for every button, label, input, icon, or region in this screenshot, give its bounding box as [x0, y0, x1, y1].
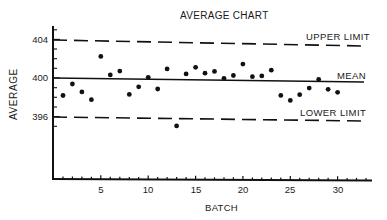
- data-point: [117, 69, 122, 74]
- data-point: [146, 75, 151, 80]
- data-point: [250, 74, 255, 79]
- mean-label: MEAN: [337, 70, 366, 81]
- data-point: [335, 90, 340, 95]
- data-point: [155, 87, 160, 92]
- upper-limit-label: UPPER LIMIT: [306, 31, 370, 42]
- data-point: [80, 90, 85, 95]
- x-axis: [52, 179, 372, 181]
- x-tick-5: 5: [91, 184, 111, 195]
- data-point: [269, 68, 274, 73]
- data-point: [231, 73, 236, 78]
- y-tick-396: 396: [18, 111, 48, 122]
- data-point: [222, 76, 227, 81]
- data-point: [307, 86, 312, 91]
- data-point: [136, 84, 141, 89]
- data-point: [127, 92, 132, 97]
- x-tick-25: 25: [280, 184, 300, 195]
- data-point: [61, 93, 66, 98]
- lower-limit-label: LOWER LIMIT: [300, 107, 366, 118]
- data-point: [108, 73, 113, 78]
- x-axis-label: BATCH: [205, 202, 238, 213]
- data-point: [259, 74, 264, 79]
- data-point: [98, 54, 103, 59]
- data-point: [326, 87, 331, 92]
- data-point: [288, 98, 293, 103]
- data-point: [316, 77, 321, 82]
- data-point: [165, 67, 170, 72]
- y-tick-404: 404: [18, 34, 48, 45]
- chart-title: AVERAGE CHART: [180, 10, 300, 21]
- y-tick-400: 400: [18, 72, 48, 83]
- data-point: [184, 72, 189, 77]
- x-tick-15: 15: [186, 184, 206, 195]
- data-point: [241, 62, 246, 67]
- data-point: [193, 65, 198, 70]
- data-point: [89, 97, 94, 102]
- x-tick-10: 10: [138, 184, 158, 195]
- data-point: [212, 69, 217, 74]
- data-point: [70, 82, 75, 87]
- x-tick-30: 30: [328, 184, 348, 195]
- data-point: [278, 93, 283, 98]
- data-point: [174, 124, 179, 129]
- x-tick-20: 20: [233, 184, 253, 195]
- data-point: [297, 92, 302, 97]
- data-point: [203, 71, 208, 76]
